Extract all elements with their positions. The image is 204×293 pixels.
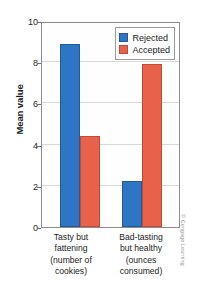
y-tick-label-2: 2 xyxy=(12,182,38,192)
y-tick-label-8: 8 xyxy=(12,58,38,68)
x-category-label-1-line-2: (ounces xyxy=(106,255,176,266)
y-tick-label-6: 6 xyxy=(12,99,38,109)
x-category-label-0-line-3: cookies) xyxy=(36,266,106,277)
legend-label-rejected: Rejected xyxy=(132,33,168,43)
x-category-label-0-line-1: fattening xyxy=(36,243,106,254)
y-tick-mark-0 xyxy=(37,228,41,229)
y-tick-label-10: 10 xyxy=(12,17,38,27)
legend-item-rejected: Rejected xyxy=(119,32,170,43)
x-category-label-0-line-2: (number of xyxy=(36,255,106,266)
bar-accepted-group-1 xyxy=(142,64,162,227)
x-category-label-1-line-1: but healthy xyxy=(106,243,176,254)
legend-label-accepted: Accepted xyxy=(132,45,170,55)
x-category-label-1-line-0: Bad-tasting xyxy=(106,232,176,243)
legend-swatch-rejected xyxy=(119,33,128,42)
y-tick-label-4: 4 xyxy=(12,141,38,151)
attribution-text: © Cengage Learning xyxy=(180,214,186,290)
x-category-label-1-line-3: consumed) xyxy=(106,266,176,277)
bar-chart-figure: Mean value 0246810 RejectedAccepted Tast… xyxy=(0,0,204,293)
bar-rejected-group-0 xyxy=(60,44,80,227)
plot-area: RejectedAccepted xyxy=(41,22,180,228)
bar-accepted-group-0 xyxy=(80,136,100,227)
x-category-label-0: Tasty butfattening(number ofcookies) xyxy=(36,232,106,278)
y-tick-label-0: 0 xyxy=(12,223,38,233)
legend-item-accepted: Accepted xyxy=(119,44,170,55)
x-category-label-0-line-0: Tasty but xyxy=(36,232,106,243)
bar-rejected-group-1 xyxy=(122,181,142,227)
legend: RejectedAccepted xyxy=(115,27,175,60)
legend-swatch-accepted xyxy=(119,45,128,54)
x-category-label-1: Bad-tastingbut healthy(ouncesconsumed) xyxy=(106,232,176,278)
